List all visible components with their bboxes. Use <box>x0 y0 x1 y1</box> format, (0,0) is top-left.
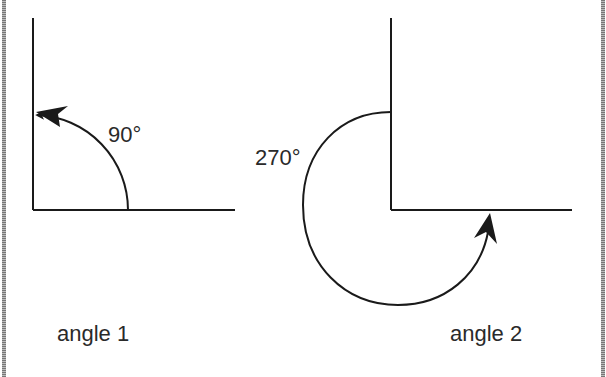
angle-1-figure <box>33 18 235 210</box>
angle-2-figure <box>303 18 572 305</box>
arrowhead-icon <box>36 106 68 127</box>
angle-2-caption: angle 2 <box>450 323 522 345</box>
angle-2-arc <box>303 112 488 305</box>
angle-1-measure-label: 90° <box>108 124 141 146</box>
angle-1-caption: angle 1 <box>57 323 129 345</box>
angle-2-measure-label: 270° <box>255 147 301 169</box>
